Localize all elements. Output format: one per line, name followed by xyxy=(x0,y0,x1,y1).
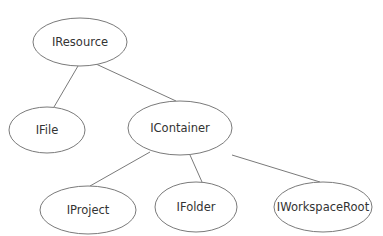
edge-icontainer-to-iproject xyxy=(90,152,150,186)
node-label: IContainer xyxy=(150,121,210,135)
node-iproject: IProject xyxy=(40,186,136,234)
node-icontainer: IContainer xyxy=(128,101,232,155)
edge-iresource-to-ifile xyxy=(54,66,78,107)
node-iworkspaceroot: IWorkspaceRoot xyxy=(274,182,372,232)
node-label: IFile xyxy=(36,123,59,137)
node-ifile: IFile xyxy=(9,107,85,153)
node-ifolder: IFolder xyxy=(155,182,237,232)
node-label: IFolder xyxy=(177,200,216,214)
node-label: IResource xyxy=(52,35,108,49)
edge-iresource-to-icontainer xyxy=(96,64,176,101)
class-hierarchy-diagram: IResourceIFileIContainerIProjectIFolderI… xyxy=(0,0,383,236)
node-label: IProject xyxy=(67,203,110,217)
node-label: IWorkspaceRoot xyxy=(277,200,370,214)
node-iresource: IResource xyxy=(33,18,127,66)
nodes: IResourceIFileIContainerIProjectIFolderI… xyxy=(9,18,372,234)
edge-icontainer-to-ifolder xyxy=(190,155,202,182)
edge-icontainer-to-iworkspaceroot xyxy=(232,155,320,182)
